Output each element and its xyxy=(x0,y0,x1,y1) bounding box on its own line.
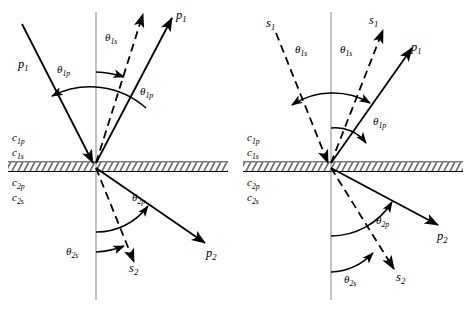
interface-left xyxy=(8,162,228,172)
wave-reflection-transmission-figure: p1 p1 θ1s θ1p θ1p θ2p θ2s s2 p2 c1p xyxy=(0,0,475,333)
interface-hatching xyxy=(8,163,228,172)
interface-hatching xyxy=(243,163,463,172)
figure-canvas: p1 p1 θ1s θ1p θ1p θ2p θ2s s2 p2 c1p xyxy=(0,0,475,333)
interface-right xyxy=(243,162,463,172)
